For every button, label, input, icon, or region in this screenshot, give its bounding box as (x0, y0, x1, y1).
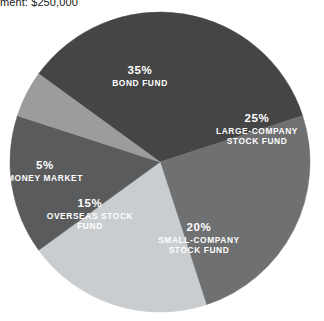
slice-name-label: FUND (77, 221, 103, 231)
slice-name-label: STOCK FUND (227, 136, 288, 146)
slice-name-label: OVERSEAS STOCK (47, 211, 133, 221)
slice-name-label: STOCK FUND (169, 245, 230, 255)
slice-percent-label: 5% (36, 159, 54, 171)
slice-name-label: LARGE-COMPANY (216, 126, 298, 136)
pie-slices-group (10, 12, 310, 312)
slice-percent-label: 15% (78, 197, 103, 209)
slice-name-label: SMALL-COMPANY (158, 235, 240, 245)
pie-chart-svg: 35%BOND FUND25%LARGE-COMPANYSTOCK FUND20… (0, 0, 324, 321)
slice-percent-label: 20% (187, 221, 212, 233)
pie-chart-figure: ment: $250,000 35%BOND FUND25%LARGE-COMP… (0, 0, 324, 321)
slice-name-label: BOND FUND (112, 78, 168, 88)
slice-name-label: MONEY MARKET (7, 173, 83, 183)
slice-percent-label: 35% (128, 64, 153, 76)
slice-percent-label: 25% (245, 112, 270, 124)
